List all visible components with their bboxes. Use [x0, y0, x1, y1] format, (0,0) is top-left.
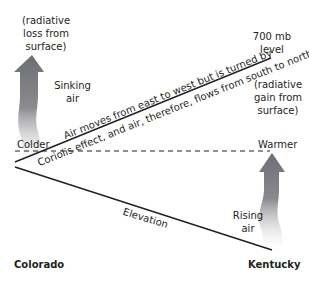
radiative-gain-label: (radiative gain from surface) — [248, 78, 308, 117]
radiative-loss-label: (radiative loss from surface) — [16, 14, 76, 53]
rising-air-line-1: Rising — [228, 209, 268, 222]
radiative-gain-line-3: surface) — [248, 104, 308, 117]
warmer-label: Warmer — [258, 138, 297, 151]
sinking-air-label: Sinking air — [50, 79, 95, 105]
radiative-loss-line-1: (radiative — [16, 14, 76, 27]
sinking-air-line-1: Sinking — [50, 79, 95, 92]
700mb-line-1: 700 mb — [242, 30, 302, 43]
rising-air-arrow-icon — [259, 153, 285, 255]
rising-air-line-2: air — [228, 222, 268, 235]
radiative-gain-line-2: gain from — [248, 91, 308, 104]
colorado-label: Colorado — [14, 258, 64, 271]
radiative-loss-line-3: surface) — [16, 40, 76, 53]
kentucky-label: Kentucky — [248, 258, 300, 271]
air-flow-diagram: (radiative loss from surface) Sinking ai… — [0, 0, 309, 281]
sinking-air-arrow-icon — [14, 55, 44, 172]
colder-label: Colder — [17, 138, 50, 151]
rising-air-label: Rising air — [228, 209, 268, 235]
radiative-loss-line-2: loss from — [16, 27, 76, 40]
sinking-air-line-2: air — [50, 92, 95, 105]
